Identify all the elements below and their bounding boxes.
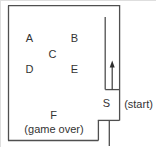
room-label-b: B [71, 33, 78, 44]
game-over-annotation: (game over) [24, 124, 83, 135]
room-label-d: D [26, 64, 34, 75]
room-label-c: C [49, 48, 57, 59]
room-label-f: F [50, 110, 57, 121]
game-map-diagram: A B C D E F S (start) (game over) [0, 0, 156, 147]
start-label: S [103, 98, 110, 109]
up-arrow-icon [110, 61, 115, 90]
room-label-a: A [26, 33, 33, 44]
room-label-e: E [71, 64, 78, 75]
start-annotation: (start) [124, 99, 153, 110]
